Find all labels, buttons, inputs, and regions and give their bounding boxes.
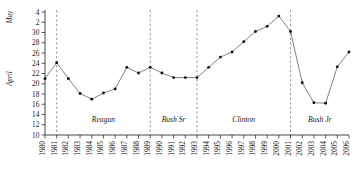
y-axis-label-may: May: [6, 10, 14, 25]
era-label-bush-jr: Bush Jr: [308, 115, 331, 124]
data-point: 1999: May 1: [266, 25, 269, 28]
x-tick-label: 1980: [38, 141, 47, 156]
y-tick-label: 10: [32, 131, 40, 140]
data-point: 1981: Apr 24: [55, 61, 58, 64]
data-point: 1985: Apr 18: [102, 92, 105, 95]
data-point: 1994: Apr 23: [207, 66, 210, 69]
data-point: 1996: Apr 26: [231, 51, 234, 54]
x-tick-label: 1983: [73, 141, 82, 156]
line-chart: 101214161820222426283024MayApril19801981…: [0, 0, 355, 182]
y-tick-label: 28: [32, 38, 40, 47]
x-tick-label: 1999: [260, 141, 269, 156]
data-point: 1990: Apr 22: [160, 72, 163, 75]
x-tick-label: 2004: [319, 141, 328, 156]
x-tick-label: 1992: [178, 141, 187, 156]
data-point: 1987: Apr 23: [125, 66, 128, 69]
y-tick-label: 14: [32, 110, 40, 119]
x-tick-label: 1986: [108, 141, 117, 156]
x-tick-label: 1996: [225, 141, 234, 156]
x-tick-label: 2003: [307, 141, 316, 156]
data-point: 2003: Apr 16: [312, 101, 315, 104]
data-point: 1984: Apr 17: [90, 98, 93, 101]
data-point: 1997: Apr 28: [242, 40, 245, 43]
x-tick-label: 1984: [85, 141, 94, 156]
data-point: 2001: Apr 30: [289, 30, 292, 33]
x-tick-label: 1997: [237, 141, 246, 156]
x-tick-label: 1998: [248, 141, 257, 156]
data-point: 1992: Apr 21: [184, 76, 187, 79]
data-point: 1995: Apr 25: [219, 56, 222, 59]
data-point: 1989: Apr 23: [149, 66, 152, 69]
x-tick-label: 1991: [167, 141, 176, 156]
x-tick-label: 1994: [202, 141, 211, 156]
x-tick-label: 1990: [155, 141, 164, 156]
data-point: 2002: Apr 20: [301, 81, 304, 84]
data-point: 1993: Apr 21: [196, 76, 199, 79]
data-point: 1982: Apr 21: [67, 77, 70, 80]
y-tick-label: 2: [36, 18, 40, 27]
data-point: 2005: Apr 23: [336, 65, 339, 68]
x-tick-label: 1995: [213, 141, 222, 156]
chart-container: 101214161820222426283024MayApril19801981…: [0, 0, 355, 182]
x-tick-label: 2001: [284, 141, 293, 156]
x-tick-label: 1988: [132, 141, 141, 156]
era-label-reagan: Reagan: [91, 115, 115, 124]
y-axis-label-april: April: [6, 71, 14, 87]
data-point: 1988: Apr 22: [137, 72, 140, 75]
data-point: 1980: Apr 21: [44, 77, 47, 80]
data-point: 1998: Apr 30: [254, 30, 257, 33]
y-tick-label: 18: [32, 90, 40, 99]
x-tick-label: 1985: [96, 141, 105, 156]
data-point: 2004: Apr 16: [324, 102, 327, 105]
x-tick-label: 1987: [120, 141, 129, 156]
x-tick-label: 2006: [342, 141, 351, 156]
x-tick-label: 1993: [190, 141, 199, 156]
y-tick-label: 22: [32, 69, 40, 78]
y-tick-label: 20: [32, 79, 40, 88]
era-label-bush-sr: Bush Sr: [162, 115, 186, 124]
x-tick-label: 2000: [272, 141, 281, 156]
y-tick-label: 30: [32, 28, 40, 37]
x-tick-label: 1981: [50, 141, 59, 156]
x-tick-label: 2002: [295, 141, 304, 156]
x-tick-label: 1989: [143, 141, 152, 156]
x-tick-label: 1982: [61, 141, 70, 156]
y-tick-label: 4: [36, 8, 40, 17]
y-tick-label: 24: [32, 59, 40, 68]
y-tick-label: 16: [32, 100, 40, 109]
era-label-clinton: Clinton: [232, 115, 255, 124]
data-point: 1983: Apr 18: [79, 92, 82, 95]
y-tick-label: 12: [32, 120, 40, 129]
data-point: 2006: Apr 26: [348, 51, 351, 54]
data-point: 2000: May 3: [277, 15, 280, 18]
data-point: 1986: Apr 19: [114, 87, 117, 90]
data-point: 1991: Apr 21: [172, 76, 175, 79]
x-tick-label: 2005: [330, 141, 339, 156]
y-tick-label: 26: [32, 49, 40, 58]
